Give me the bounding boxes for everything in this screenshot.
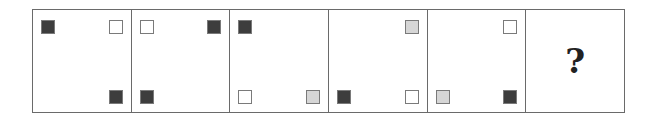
panel-5 <box>428 10 527 112</box>
light-square-tr <box>405 20 419 34</box>
white-square-tr <box>503 20 517 34</box>
panel-4 <box>329 10 428 112</box>
dark-square-tl <box>41 20 55 34</box>
panel-3 <box>230 10 329 112</box>
puzzle-strip: ? <box>32 9 625 113</box>
answer-panel: ? <box>526 10 624 112</box>
dark-square-br <box>109 90 123 104</box>
light-square-br <box>306 90 320 104</box>
light-square-bl <box>436 90 450 104</box>
dark-square-tr <box>207 20 221 34</box>
white-square-br <box>405 90 419 104</box>
dark-square-bl <box>337 90 351 104</box>
panel-1 <box>33 10 132 112</box>
white-square-tr <box>109 20 123 34</box>
white-square-tl <box>140 20 154 34</box>
question-mark: ? <box>526 41 624 81</box>
dark-square-br <box>503 90 517 104</box>
white-square-bl <box>238 90 252 104</box>
dark-square-bl <box>140 90 154 104</box>
panel-2 <box>132 10 231 112</box>
dark-square-tl <box>238 20 252 34</box>
